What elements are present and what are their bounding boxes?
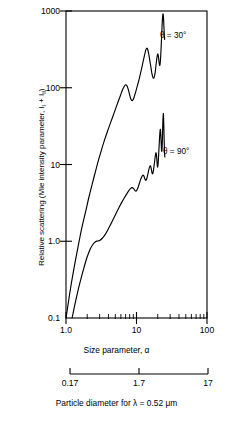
x-tick-label-100: 100 xyxy=(200,325,214,335)
x-tick-label-10: 10 xyxy=(132,325,142,335)
curve-annotation-theta-90: θ = 90° xyxy=(163,147,189,156)
plot-svg xyxy=(0,0,233,428)
x-axis-title: Size parameter, α xyxy=(0,345,233,355)
secondary-tick-label-1.7: 1.7 xyxy=(133,378,145,388)
curve-annotation-theta-30: θ = 30° xyxy=(160,31,186,40)
mie-scattering-figure: Relative scattering (Mie intensity param… xyxy=(0,0,233,428)
secondary-tick-label-17: 17 xyxy=(203,378,213,388)
x-tick-label-1: 1.0 xyxy=(60,325,72,335)
secondary-axis-line xyxy=(70,368,208,374)
secondary-tick-label-0.17: 0.17 xyxy=(62,378,79,388)
curve-theta-90 xyxy=(72,113,165,318)
secondary-axis-title: Particle diameter for λ = 0.52 μm xyxy=(0,398,233,408)
plot-frame xyxy=(66,11,207,318)
data-curves xyxy=(66,14,165,318)
